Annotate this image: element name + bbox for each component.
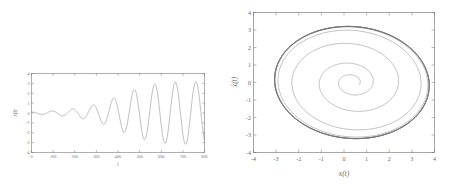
- phase-portrait-plot: -4-3-2-101234 -4-3-2-101234 x(t) ẋ(t): [224, 0, 449, 185]
- x-tick-label: -2: [296, 156, 301, 162]
- y-tick-label: -1: [26, 120, 30, 125]
- x-tick-label: 2: [388, 156, 391, 162]
- x-tick-label: -4: [251, 156, 256, 162]
- x-tick-label: 200: [72, 154, 78, 159]
- x-axis-title: x(t): [338, 169, 350, 178]
- y-tick-label: -3: [26, 140, 30, 145]
- x-tick-label: -1: [319, 156, 324, 162]
- x-tick-label: 300: [93, 154, 99, 159]
- y-tick-label: -4: [246, 150, 251, 156]
- y-tick-label: 2: [248, 45, 251, 51]
- y-tick-label: -2: [26, 130, 30, 135]
- y-tick-label: 4: [248, 10, 251, 16]
- phase-portrait-tickmarks: [254, 13, 435, 153]
- y-tick-label: -2: [246, 115, 251, 121]
- y-axis-title: x(t): [12, 109, 19, 117]
- x-tick-label: 800: [201, 154, 207, 159]
- phase-portrait-trajectory: [275, 26, 430, 138]
- x-tick-label: 500: [136, 154, 142, 159]
- y-tick-label: 1: [28, 101, 30, 106]
- x-tick-label: 100: [50, 154, 56, 159]
- y-tick-label: 0: [248, 80, 251, 86]
- x-axis-title: t: [117, 161, 119, 167]
- time-series-plot: 0100200300400500600700800 -4-3-2-101234 …: [0, 60, 215, 170]
- y-axis-title: ẋ(t): [230, 76, 239, 88]
- time-series-y-ticklabels: -4-3-2-101234: [26, 71, 30, 155]
- y-tick-label: -1: [246, 97, 251, 103]
- y-tick-label: 4: [28, 71, 31, 76]
- x-tick-label: 700: [180, 154, 186, 159]
- y-tick-label: 1: [248, 62, 251, 68]
- time-series-x-ticklabels: 0100200300400500600700800: [30, 154, 207, 159]
- phase-portrait-x-ticklabels: -4-3-2-101234: [251, 156, 436, 162]
- y-tick-label: 3: [248, 27, 251, 33]
- x-tick-label: 4: [433, 156, 436, 162]
- x-tick-label: 600: [158, 154, 164, 159]
- x-tick-label: 3: [410, 156, 413, 162]
- x-tick-label: 1: [365, 156, 368, 162]
- y-tick-label: 3: [28, 81, 30, 86]
- x-tick-label: 0: [342, 156, 345, 162]
- phase-portrait-y-ticklabels: -4-3-2-101234: [246, 10, 251, 156]
- x-tick-label: 0: [30, 154, 32, 159]
- plot-frame: [254, 13, 435, 153]
- x-tick-label: 400: [115, 154, 121, 159]
- time-series-curve: [32, 82, 205, 145]
- y-tick-label: 2: [28, 91, 30, 96]
- y-tick-label: 0: [28, 111, 30, 116]
- time-series-figure: 0100200300400500600700800 -4-3-2-101234 …: [0, 60, 215, 170]
- y-tick-label: -3: [246, 132, 251, 138]
- x-tick-label: -3: [274, 156, 279, 162]
- phase-portrait-figure: -4-3-2-101234 -4-3-2-101234 x(t) ẋ(t): [224, 0, 449, 185]
- phase-portrait-axes: [254, 13, 435, 153]
